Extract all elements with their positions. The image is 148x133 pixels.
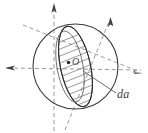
arrow-right-icon	[133, 70, 143, 74]
inner-arc-group	[51, 29, 89, 104]
leader-line-da	[83, 71, 116, 93]
axes-group	[7, 6, 141, 131]
area-element-label: da	[117, 88, 129, 100]
origin-label: O	[72, 57, 79, 67]
area-element-disk	[20, 10, 140, 133]
arrow-left-icon	[5, 65, 15, 70]
disk-hatching	[20, 10, 140, 133]
inner-meridian-arc	[51, 29, 89, 104]
diagonal-axis-ne-line	[23, 25, 140, 72]
arrow-upright-icon	[108, 17, 114, 27]
figure-container: da O	[0, 0, 148, 133]
horizontal-axis-line	[7, 68, 141, 70]
origin-point	[67, 61, 71, 65]
